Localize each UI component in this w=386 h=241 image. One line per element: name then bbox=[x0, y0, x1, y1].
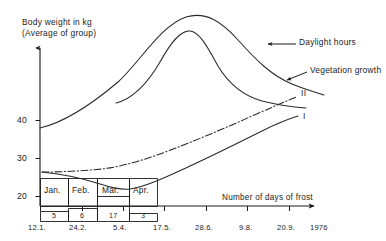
curve-label-ii: II bbox=[301, 89, 306, 99]
vegetation-growth-leader bbox=[287, 72, 307, 80]
annotation-daylight-hours: Daylight hours bbox=[299, 38, 356, 48]
x-tick-label-5: 9.8. bbox=[239, 224, 252, 233]
annotation-vegetation-growth: Vegetation growth bbox=[310, 66, 381, 76]
frost-days-jan: 5 bbox=[52, 212, 56, 220]
month-label-mar: Mar. bbox=[102, 186, 119, 196]
x-axis-caption: Number of days of frost bbox=[222, 193, 313, 202]
x-tick-label-6: 20.9. bbox=[277, 224, 295, 233]
y-tick-label-30: 30 bbox=[17, 154, 27, 164]
series-vegetation-growth bbox=[116, 31, 306, 108]
series-body-weight-ii bbox=[42, 97, 296, 172]
year-label: 1976 bbox=[310, 224, 328, 233]
x-tick-label-3: 17.5. bbox=[153, 224, 171, 233]
frost-days-apr: 3 bbox=[141, 212, 145, 220]
curve-label-i: I bbox=[303, 112, 306, 122]
chart-figure: Body weight in kg (Average of group) 40 … bbox=[0, 0, 386, 241]
month-label-apr: Apr. bbox=[133, 186, 149, 196]
x-tick-label-1: 24.2. bbox=[69, 224, 87, 233]
y-axis-title-line2: (Average of group) bbox=[22, 29, 96, 39]
x-tick-label-4: 28.6. bbox=[195, 224, 213, 233]
series-body-weight-i bbox=[42, 116, 298, 189]
y-tick-label-20: 20 bbox=[17, 192, 27, 202]
y-tick-label-40: 40 bbox=[17, 116, 27, 126]
month-label-feb: Feb. bbox=[72, 186, 90, 196]
x-tick-label-2: 5.4. bbox=[113, 224, 126, 233]
frost-days-feb: 6 bbox=[80, 212, 84, 220]
y-axis-title-line1: Body weight in kg bbox=[22, 18, 92, 28]
x-tick-label-0: 12.1. bbox=[28, 224, 46, 233]
month-label-jan: Jan. bbox=[44, 186, 61, 196]
frost-days-mar: 17 bbox=[109, 212, 117, 220]
